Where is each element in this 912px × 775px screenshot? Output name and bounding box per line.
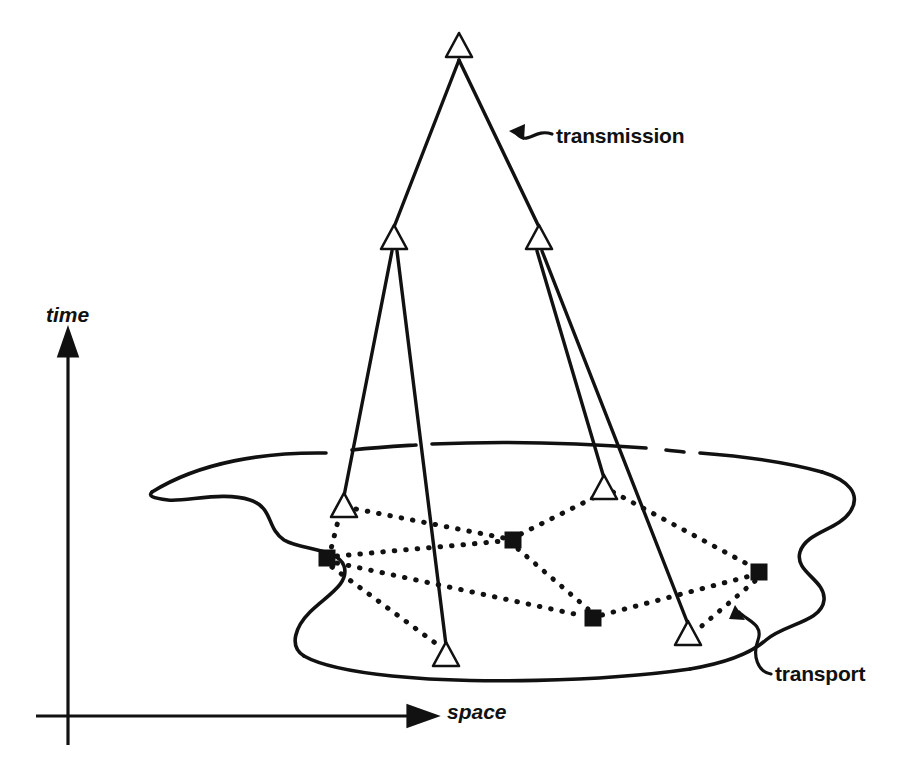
- triangle-node-ground-center[interactable]: [433, 642, 459, 666]
- transport-link-s1-s2: [337, 541, 504, 556]
- diagram-canvas: time space transmission transport: [0, 0, 912, 775]
- transport-callout-label: transport: [775, 662, 865, 686]
- transmission-arrowhead: [509, 124, 525, 140]
- time-axis-label: time: [46, 303, 89, 327]
- transport-link-s2-g3: [521, 496, 597, 534]
- square-node-right[interactable]: [751, 564, 767, 580]
- transport-link-s4-g4: [697, 581, 755, 630]
- square-node-left[interactable]: [319, 550, 335, 566]
- triangle-node-ground-right[interactable]: [675, 621, 701, 645]
- triangle-node-ground-upper-right[interactable]: [591, 475, 617, 499]
- up-arrow-icon: [59, 330, 77, 356]
- transmission-link-apex-right: [459, 60, 539, 227]
- callout-arrowheads: [509, 124, 745, 620]
- transport-link-g3-s4: [613, 492, 751, 566]
- transmission-link-left-g1: [344, 251, 392, 496]
- transport-link-g1-s1: [331, 513, 340, 549]
- right-arrow-icon: [408, 706, 436, 726]
- triangle-node-apex[interactable]: [446, 33, 472, 57]
- transport-link-s1-s3: [337, 563, 584, 616]
- transport-link-s1-g2: [332, 567, 438, 645]
- diagram-svg: [0, 0, 912, 775]
- square-node-bottom-center[interactable]: [585, 610, 601, 626]
- transport-links: [331, 492, 755, 645]
- callout-leaders: [517, 133, 771, 674]
- transport-leader-line: [739, 612, 771, 674]
- space-plane-outline: [151, 443, 855, 681]
- transport-arrowhead: [729, 605, 745, 620]
- axes: [36, 330, 436, 745]
- triangle-node-ground-left[interactable]: [331, 493, 357, 517]
- transmission-callout-label: transmission: [556, 124, 684, 148]
- transport-link-s2-s3: [518, 549, 588, 609]
- space-axis-label: space: [447, 700, 507, 724]
- transmission-link-apex-left: [394, 60, 459, 227]
- triangle-node-mid-right[interactable]: [526, 225, 552, 249]
- triangle-node-mid-left[interactable]: [381, 225, 407, 249]
- square-node-center[interactable]: [505, 532, 521, 548]
- transmission-link-right-g4: [542, 251, 688, 624]
- square-nodes: [319, 532, 767, 626]
